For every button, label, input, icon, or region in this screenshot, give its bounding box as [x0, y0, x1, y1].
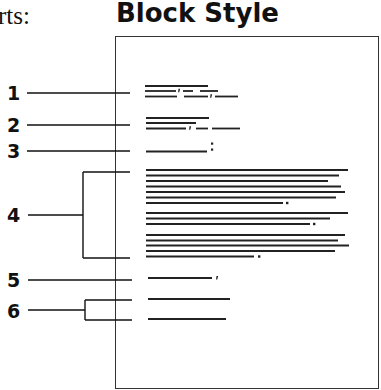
bracket-4 [28, 172, 130, 258]
diagram-lines [0, 0, 381, 390]
letter-content-lines [145, 86, 349, 319]
body-paragraph-2 [146, 213, 348, 224]
body-paragraph-1 [146, 170, 348, 203]
heading-lines [145, 86, 238, 97]
bracket-6 [28, 300, 132, 320]
body-paragraph-3 [146, 235, 349, 257]
inside-address-lines [146, 118, 240, 129]
callout-leaders [27, 93, 132, 320]
